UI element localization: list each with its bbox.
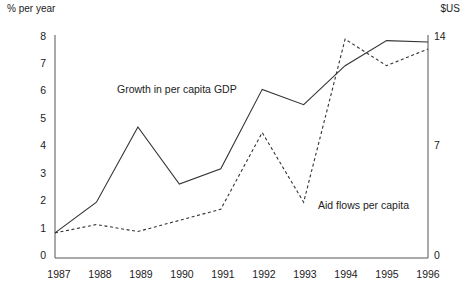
series-line-aid <box>55 39 428 233</box>
chart-container: % per year $US 8 7 6 5 4 3 2 1 0 14 7 0 … <box>0 0 467 293</box>
chart-plot-svg <box>0 0 467 293</box>
series-line-gdp <box>55 41 428 233</box>
